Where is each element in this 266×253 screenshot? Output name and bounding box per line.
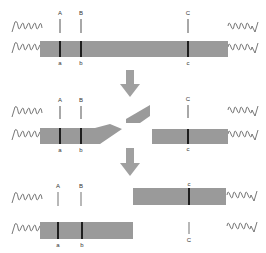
dna-helix-icon [12,22,42,33]
marker-c [188,188,190,205]
marker-A [59,106,61,119]
down-arrow-icon [120,70,140,97]
marker-b [80,128,82,144]
allele-label-A: A [56,183,60,189]
allele-label-a: a [58,147,62,153]
allele-label-A: A [58,97,62,103]
dna-helix-icon [12,107,42,118]
allele-label-A: A [58,10,62,16]
allele-label-c: c [187,60,190,66]
allele-label-C: C [187,237,192,243]
marker-B [80,19,82,33]
dna-helix-icon [228,106,258,116]
crossing-over-diagram: A B C a b c A B C [0,0,266,253]
marker-a [57,222,59,239]
exchanged-chromatid-bar [133,188,226,205]
allele-label-C: C [186,10,191,16]
marker-C [187,105,189,118]
dna-helix-icon [227,191,257,201]
stage-2-break: A B C a b c [12,96,258,153]
chromatid-bar [40,222,133,239]
dna-helix-icon [12,224,42,235]
stage-3-after-exchange: A B c a b C [12,181,257,248]
allele-label-a: a [56,242,60,248]
dna-helix-icon [12,193,42,204]
dna-helix-icon [228,43,258,53]
allele-label-B: B [79,183,83,189]
marker-a [59,128,61,144]
broken-fragment [126,105,150,123]
marker-C [188,222,190,234]
dna-helix-icon [12,43,42,54]
marker-B [80,192,82,206]
marker-b [80,41,82,57]
dna-helix-icon [12,130,42,141]
marker-c [187,129,189,144]
chromatid-bar [40,41,228,57]
allele-label-b: b [79,147,83,153]
marker-B [80,106,82,119]
marker-b [81,222,83,239]
allele-label-B: B [79,97,83,103]
dna-helix-icon [228,130,258,140]
allele-label-b: b [79,60,83,66]
chromatid-bar-right [152,129,228,144]
allele-label-c: c [188,181,191,187]
marker-c [187,41,189,57]
marker-C [187,19,189,33]
marker-a [59,41,61,57]
down-arrow-icon [120,148,140,176]
allele-label-C: C [186,96,191,102]
allele-label-B: B [79,10,83,16]
dna-helix-icon [228,22,258,32]
stage-1-before-break: A B C a b c [12,10,258,66]
dna-helix-icon [227,222,257,232]
allele-label-b: b [80,242,84,248]
marker-A [57,192,59,206]
allele-label-c: c [187,146,190,152]
allele-label-a: a [58,60,62,66]
marker-A [59,19,61,33]
